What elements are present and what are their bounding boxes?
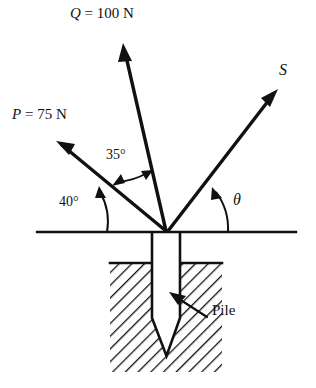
angle-arc-theta	[211, 187, 228, 232]
pile-force-diagram: Q = 100 N P = 75 N S θ 35° 40° Pile	[0, 0, 316, 388]
label-force-p-value: = 75 N	[21, 106, 67, 122]
label-pile: Pile	[212, 303, 235, 318]
diagram-canvas	[0, 0, 316, 388]
angle-arc-40	[95, 186, 108, 232]
label-force-q-symbol: Q	[70, 5, 81, 21]
vector-q	[118, 43, 166, 231]
label-force-p: P = 75 N	[12, 107, 67, 122]
label-angle-theta: θ	[233, 192, 241, 208]
label-force-q: Q = 100 N	[70, 6, 134, 21]
vector-s	[168, 89, 278, 231]
label-force-s: S	[279, 62, 287, 78]
label-angle-40: 40°	[59, 195, 79, 209]
angle-arc-35	[112, 170, 153, 186]
label-angle-35: 35°	[106, 148, 126, 162]
label-force-q-value: = 100 N	[81, 5, 134, 21]
label-force-p-symbol: P	[12, 106, 21, 122]
